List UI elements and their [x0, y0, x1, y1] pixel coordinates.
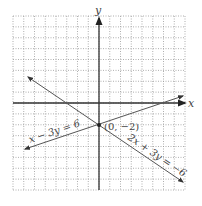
- x-axis-label: x: [188, 97, 195, 110]
- y-axis-label: y: [94, 4, 102, 17]
- coordinate-graph: x y (0, −2) x − 3y = 6 2x + 3y = −6: [0, 0, 202, 206]
- intersection-label: (0, −2): [104, 121, 139, 132]
- line1-label: x − 3y = 6: [27, 117, 82, 145]
- line2-label: 2x + 3y = −6: [125, 131, 189, 179]
- intersection-point: [97, 123, 101, 127]
